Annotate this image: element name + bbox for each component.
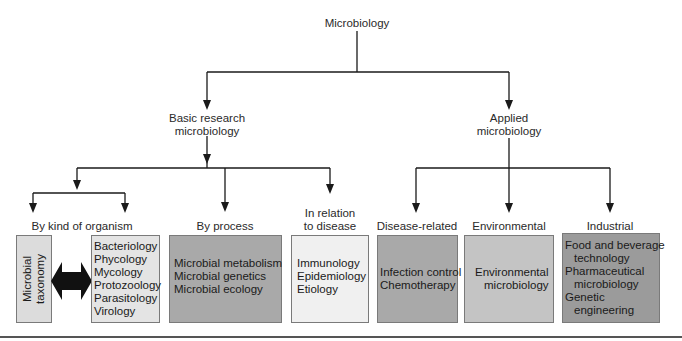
process-item: Microbial metabolism (174, 257, 281, 270)
organism-item: Phycology (94, 253, 159, 266)
organism-item: Mycology (94, 266, 159, 279)
organism-item: Virology (94, 305, 159, 318)
process-item: Microbial genetics (174, 270, 281, 283)
branch-applied-line2: microbiology (459, 125, 559, 138)
disease-item: Immunology (297, 257, 368, 270)
in-relation-line2: to disease (290, 220, 370, 233)
category-label-by-process: By process (175, 220, 275, 233)
box-disease-related: Infection control Chemotherapy (377, 235, 458, 323)
category-label-industrial: Industrial (560, 220, 660, 233)
disease-related-item: Infection control (380, 266, 457, 279)
industrial-item: Genetic (565, 291, 659, 304)
process-item: Microbial ecology (174, 283, 281, 296)
category-label-environmental: Environmental (461, 220, 557, 233)
organism-item: Bacteriology (94, 240, 159, 253)
category-label-disease-related: Disease-related (372, 220, 462, 233)
branch-label-applied: Applied microbiology (459, 112, 559, 138)
taxonomy-text: Microbial taxonomy (21, 254, 47, 304)
taxonomy-line1: Microbial (21, 254, 34, 304)
branch-applied-line1: Applied (459, 112, 559, 125)
disease-item: Epidemiology (297, 270, 368, 283)
industrial-item: technology (565, 252, 659, 265)
industrial-item: engineering (565, 304, 659, 317)
industrial-item: Food and beverage (565, 239, 659, 252)
category-label-by-kind: By kind of organism (22, 220, 142, 233)
branch-basic-line2: microbiology (157, 125, 257, 138)
disease-item: Etiology (297, 283, 368, 296)
root-label-microbiology: Microbiology (307, 17, 407, 30)
bottom-divider (0, 336, 682, 338)
environmental-item: microbiology (475, 279, 553, 292)
in-relation-line1: In relation (290, 207, 370, 220)
box-industrial: Food and beverage technology Pharmaceuti… (562, 233, 660, 323)
box-in-relation-to-disease: Immunology Epidemiology Etiology (291, 235, 369, 323)
environmental-item: Environmental (475, 266, 553, 279)
box-microbial-taxonomy: Microbial taxonomy (16, 235, 52, 323)
box-environmental: Environmental microbiology (464, 235, 554, 323)
double-headed-arrow-icon (51, 260, 92, 302)
category-label-in-relation: In relation to disease (290, 207, 370, 233)
organism-item: Parasitology (94, 292, 159, 305)
branch-label-basic-research: Basic research microbiology (157, 112, 257, 138)
organism-item: Protozoology (94, 279, 159, 292)
disease-related-item: Chemotherapy (380, 279, 457, 292)
branch-basic-line1: Basic research (157, 112, 257, 125)
box-organisms: Bacteriology Phycology Mycology Protozoo… (91, 235, 160, 323)
industrial-item: Pharmaceutical (565, 265, 659, 278)
box-by-process: Microbial metabolism Microbial genetics … (169, 235, 282, 323)
taxonomy-line2: taxonomy (34, 254, 47, 304)
industrial-item: microbiology (565, 278, 659, 291)
